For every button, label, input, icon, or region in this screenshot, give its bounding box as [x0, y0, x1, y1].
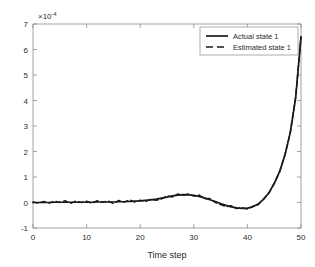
- y-tick-label: 6: [24, 46, 29, 55]
- x-tick-label: 20: [136, 233, 145, 242]
- x-tick-label: 10: [82, 233, 91, 242]
- y-tick-label: 0: [24, 199, 29, 208]
- chart-canvas: 01020304050 -101234567 ×10-4 Time step A…: [0, 0, 315, 267]
- figure-container: 01020304050 -101234567 ×10-4 Time step A…: [0, 0, 315, 267]
- legend-label-estimated: Estimated state 1: [233, 43, 291, 52]
- chart-legend[interactable]: Actual state 1 Estimated state 1: [200, 27, 298, 55]
- x-tick-label: 0: [31, 233, 36, 242]
- x-tick-label: 50: [297, 233, 306, 242]
- exponent-base: ×10: [38, 12, 52, 21]
- y-tick-label: -1: [21, 224, 29, 233]
- y-tick-label: 2: [24, 148, 29, 157]
- exponent-power: -4: [52, 11, 57, 17]
- x-tick-label: 30: [189, 233, 198, 242]
- x-tick-label: 40: [243, 233, 252, 242]
- y-tick-label: 1: [24, 173, 29, 182]
- x-axis-label: Time step: [147, 250, 186, 260]
- y-tick-label: 3: [24, 122, 29, 131]
- y-tick-label: 4: [24, 97, 29, 106]
- y-tick-label: 5: [24, 71, 29, 80]
- y-tick-label: 7: [24, 20, 29, 29]
- legend-label-actual: Actual state 1: [233, 32, 278, 41]
